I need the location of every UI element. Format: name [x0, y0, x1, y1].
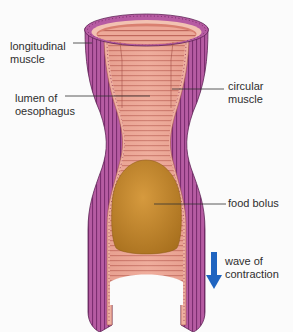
lumen-opening: [110, 275, 183, 311]
food-bolus: [112, 160, 182, 254]
label-longitudinal-muscle: longitudinal muscle: [10, 40, 66, 66]
label-food-bolus: food bolus: [228, 197, 279, 210]
label-lumen-of-oesophagus: lumen of oesophagus: [15, 92, 75, 118]
top-opening: [85, 14, 209, 46]
label-wave-of-contraction: wave of contraction: [225, 255, 279, 281]
label-circular-muscle: circular muscle: [228, 80, 263, 106]
arrow-down-icon: [206, 252, 222, 289]
